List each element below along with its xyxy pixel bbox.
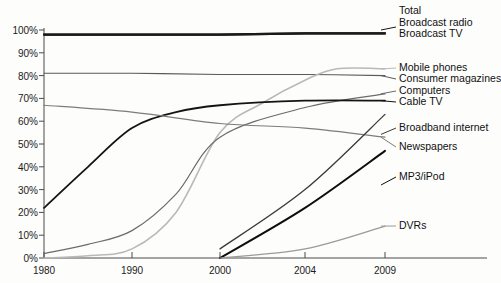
y-tick-0: 0% [24, 253, 39, 264]
label-cable-tv: Cable TV [399, 95, 443, 107]
y-tick-10: 10% [18, 230, 38, 241]
leader-consumer-magazines [381, 76, 396, 79]
x-axis-labels: 1980 1990 2000 2004 2009 [33, 265, 397, 276]
y-tick-30: 30% [18, 185, 38, 196]
series-cable-tv [44, 100, 385, 207]
label-dvrs: DVRs [399, 219, 426, 231]
series-mobile-phones [44, 68, 385, 258]
series-dvrs [220, 226, 385, 258]
series-broadcast-tv [44, 33, 385, 34]
label-broadcast-tv: Broadcast TV [399, 27, 462, 39]
leader-mp3 [381, 177, 396, 185]
y-tick-60: 60% [18, 116, 38, 127]
series-layer [44, 33, 385, 258]
label-broadband-internet: Broadband internet [399, 121, 488, 133]
leader-broadband [381, 128, 396, 134]
y-tick-marks [39, 30, 44, 258]
y-tick-40: 40% [18, 162, 38, 173]
leader-broadcast [381, 27, 396, 30]
y-tick-20: 20% [18, 207, 38, 218]
label-newspapers: Newspapers [399, 140, 457, 152]
leader-lines [381, 27, 396, 226]
x-tick-2004: 2004 [294, 265, 317, 276]
series-computers [44, 94, 385, 254]
x-tick-1990: 1990 [121, 265, 144, 276]
series-labels: Total Broadcast radio Broadcast TV Mobil… [399, 4, 501, 231]
y-tick-100: 100% [12, 25, 38, 36]
label-consumer-magazines: Consumer magazines [399, 72, 501, 84]
leader-cable-tv [381, 101, 396, 102]
y-tick-90: 90% [18, 48, 38, 59]
label-mp3-ipod: MP3/iPod [399, 170, 445, 182]
series-mp3-ipod [220, 151, 385, 258]
leader-computers [381, 91, 396, 94]
y-axis-labels: 100% 90% 80% 70% 60% 50% 40% 30% 20% 10%… [12, 25, 38, 264]
label-total: Total [399, 4, 421, 16]
y-tick-50: 50% [18, 139, 38, 150]
leader-newspapers [381, 137, 396, 147]
series-newspapers [44, 105, 385, 137]
series-consumer-magazines [44, 73, 385, 75]
y-tick-80: 80% [18, 71, 38, 82]
x-tick-2000: 2000 [209, 265, 232, 276]
y-tick-70: 70% [18, 93, 38, 104]
x-tick-1980: 1980 [33, 265, 56, 276]
line-chart: 100% 90% 80% 70% 60% 50% 40% 30% 20% 10%… [0, 0, 501, 283]
x-tick-2009: 2009 [374, 265, 397, 276]
chart-page: 100% 90% 80% 70% 60% 50% 40% 30% 20% 10%… [0, 0, 501, 283]
